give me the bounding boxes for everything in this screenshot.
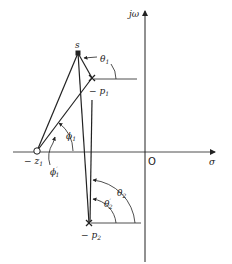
z1-label: − z1 <box>24 156 43 167</box>
zero-z1-marker <box>34 148 40 154</box>
line-s-to-p2 <box>78 53 89 223</box>
line-s-to-p1 <box>78 53 92 78</box>
phi1p-arc <box>49 143 53 165</box>
diagram-canvas: jω σ O s − p1 − p2 − z1 θ1 ϕ1 ϕ′1 θ2 θ′2 <box>0 0 232 264</box>
theta2-label: θ2 <box>117 188 126 199</box>
theta1-arc <box>111 64 116 79</box>
theta1-leader <box>84 57 97 58</box>
imag-axis-label: jω <box>127 9 140 19</box>
p1-label: − p1 <box>89 86 109 97</box>
line-p1-to-p2 <box>90 100 92 222</box>
s-point-marker <box>76 51 81 56</box>
s-plane-diagram: jω σ O s − p1 − p2 − z1 θ1 ϕ1 ϕ′1 θ2 θ′2 <box>0 0 232 264</box>
theta2p-label: θ′2 <box>104 197 113 210</box>
theta1-label: θ1 <box>100 54 109 65</box>
pole-p1-marker <box>89 75 95 81</box>
phi1-label: ϕ1 <box>66 131 76 142</box>
p2-label: − p2 <box>81 230 101 241</box>
theta2-arc <box>93 180 135 223</box>
real-axis-label: σ <box>209 157 216 167</box>
phi1p-arc-head <box>53 137 55 143</box>
origin-label: O <box>148 156 156 167</box>
s-label: s <box>75 40 80 50</box>
phi1p-label: ϕ′1 <box>50 165 59 178</box>
